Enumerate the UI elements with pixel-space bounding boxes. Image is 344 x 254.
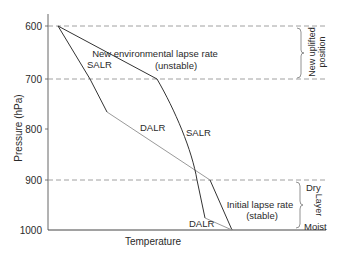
tick-800: 800 [25,124,42,135]
label-new-env-sub: (unstable) [155,60,197,71]
lower-bracket [296,182,303,228]
label-dalr-bottom: DALR [189,218,214,229]
x-axis-label: Temperature [125,236,182,247]
y-axis-label: Pressure (hPa) [13,94,24,161]
label-dalr-middle: DALR [140,122,165,133]
label-initial-sub: (stable) [246,210,278,221]
label-salr-upper: SALR [87,59,112,70]
label-new-uplifted: New uplifted [307,27,317,77]
label-moist: Moist [304,221,327,232]
label-salr-right: SALR [186,127,211,138]
label-initial: Initial lapse rate [227,199,294,210]
lapse-rate-diagram: 600 700 800 900 1000 Pressure (hPa) Temp… [0,0,344,254]
label-layer: Layer [314,194,324,217]
label-new-env: New environmental lapse rate [92,48,218,59]
label-dry: Dry [306,182,321,193]
label-position: position [317,36,327,67]
salr-right-path [157,79,205,218]
tick-1000: 1000 [20,225,43,236]
tick-900: 900 [25,175,42,186]
upper-bracket [297,28,304,78]
tick-600: 600 [25,21,42,32]
tick-700: 700 [25,74,42,85]
